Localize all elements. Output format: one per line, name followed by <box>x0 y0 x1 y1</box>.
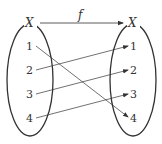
domain-element-2: 2 <box>26 64 33 77</box>
codomain-label: X <box>127 16 137 30</box>
arrow-3-to-2 <box>36 70 128 94</box>
codomain-element-1: 1 <box>130 40 137 53</box>
codomain-element-2: 2 <box>130 64 137 77</box>
codomain-element-3: 3 <box>130 88 137 101</box>
domain-element-4: 4 <box>26 112 33 125</box>
domain-element-1: 1 <box>26 40 33 53</box>
domain-label: X <box>24 16 34 30</box>
domain-element-3: 3 <box>26 88 33 101</box>
function-label: f <box>77 8 85 22</box>
mapping-diagram: X X f 1 2 3 4 1 2 3 4 <box>0 0 162 144</box>
codomain-element-4: 4 <box>130 112 137 125</box>
